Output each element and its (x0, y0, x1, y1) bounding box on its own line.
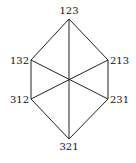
edge-312-321 (31, 99, 69, 139)
vertex-label-123: 123 (59, 5, 78, 16)
vertex-label-321: 321 (59, 141, 78, 152)
vertex-label-132: 132 (10, 55, 29, 66)
vertex-label-213: 213 (110, 55, 129, 66)
edge-123-213 (69, 19, 108, 60)
edge-231-321 (69, 99, 108, 139)
vertex-label-231: 231 (110, 94, 129, 105)
edge-123-132 (31, 19, 69, 60)
permutation-hexagon-diagram: 123 132 213 312 231 321 (0, 0, 136, 163)
edges-group (31, 19, 108, 139)
vertex-label-312: 312 (10, 94, 29, 105)
